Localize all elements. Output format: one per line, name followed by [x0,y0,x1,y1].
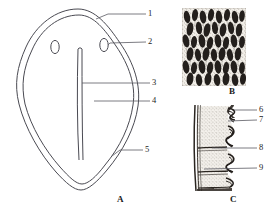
callout-number-9: 9 [259,163,263,172]
leader-line-2 [108,42,146,45]
callout-number-8: 8 [259,143,263,152]
callout-number-2: 2 [148,37,152,46]
leader-line-7 [228,120,257,121]
callout-number-4: 4 [152,96,156,105]
leader-line-9 [204,168,257,169]
panel-caption-b: B [229,87,235,96]
callout-number-1: 1 [148,9,152,18]
figure-plate: 1 2 3 4 5 6 7 8 9 A B C [0,0,273,213]
callout-number-7: 7 [259,115,263,124]
callout-number-6: 6 [259,105,263,114]
callout-number-3: 3 [152,78,156,87]
panel-caption-c: C [230,195,237,204]
leader-line-1 [96,14,146,19]
leader-line-5 [112,150,143,156]
callout-leader-lines [0,0,273,213]
panel-caption-a: A [117,195,124,204]
callout-number-5: 5 [145,145,149,154]
